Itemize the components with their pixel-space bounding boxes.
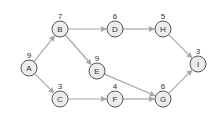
node-h: H5 [155,12,171,37]
node-weight: 9 [27,51,32,60]
node-weight: 7 [58,12,63,21]
node-d: D6 [107,12,123,37]
node-label: B [57,25,62,34]
node-c: C3 [52,82,68,107]
node-label: H [160,25,166,34]
node-a: A9 [21,51,37,76]
node-weight: 9 [95,54,100,63]
node-weight: 3 [196,47,201,56]
node-label: G [160,95,166,104]
edge-h-i [169,35,192,58]
node-label: I [197,60,199,69]
node-label: F [113,95,118,104]
edge-a-c [35,74,54,93]
network-diagram: A9B7C3D6E9F4G6H5I3 [0,0,218,119]
node-label: A [26,64,32,73]
node-weight: 3 [58,82,63,91]
node-b: B7 [52,12,68,37]
edge-g-i [169,70,192,93]
node-g: G6 [155,82,171,107]
node-label: E [94,67,99,76]
node-i: I3 [190,47,206,72]
edge-a-b [34,36,54,62]
node-e: E9 [89,54,105,79]
node-label: C [57,95,63,104]
edge-b-e [65,35,91,64]
node-label: D [112,25,118,34]
node-weight: 6 [113,12,118,21]
nodes: A9B7C3D6E9F4G6H5I3 [21,12,206,107]
node-weight: 5 [161,12,166,21]
node-f: F4 [107,82,123,107]
node-weight: 6 [161,82,166,91]
node-weight: 4 [113,82,118,91]
